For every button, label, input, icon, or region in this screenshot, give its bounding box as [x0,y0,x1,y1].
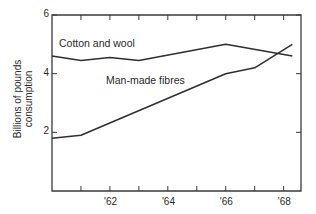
x-tick-label: '64 [162,196,175,207]
y-axis-title-line-2: consumption [23,60,34,138]
series-line-man-made-fibres [52,44,292,138]
x-tick-label: '68 [278,196,291,207]
y-axis-title: Billions of pounds consumption [6,34,40,164]
y-tick-label: 4 [37,67,49,78]
series-lines [52,44,292,138]
x-tick-label: '62 [104,196,117,207]
series-label-man-made-fibres: Man-made fibres [106,74,185,86]
series-label-cotton-and-wool: Cotton and wool [59,37,135,49]
y-tick-label: 6 [37,8,49,19]
x-tick-label: '66 [220,196,233,207]
y-axis-title-line-1: Billions of pounds [12,60,23,138]
y-tick-label: 2 [37,125,49,136]
line-chart [0,0,316,214]
